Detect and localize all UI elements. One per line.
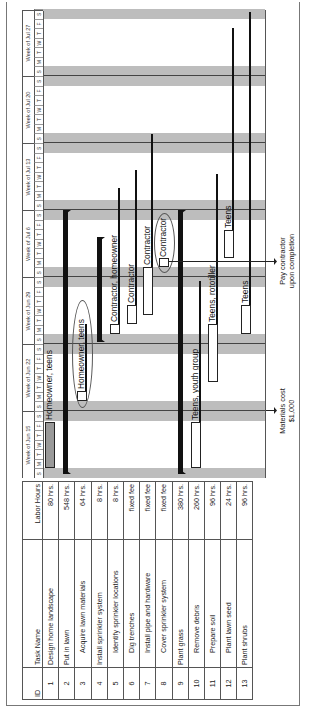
table-row: 9Plant grass380 hrs. xyxy=(172,482,188,700)
day-header: T xyxy=(34,382,43,392)
table-row: 10Remove debris260 hrs. xyxy=(188,482,204,700)
row-hours: 260 hrs. xyxy=(188,482,204,540)
day-header: W xyxy=(34,306,43,316)
week-header: Week of Jun 29 xyxy=(23,277,34,344)
day-header: S xyxy=(34,401,43,411)
resource-label-6: Contractor xyxy=(126,264,136,303)
week-divider xyxy=(43,410,265,411)
table-row: 2Put in lawn548 hrs. xyxy=(59,482,75,700)
row-id: 2 xyxy=(59,668,75,700)
row-id: 12 xyxy=(221,668,237,700)
day-header: S xyxy=(34,133,43,143)
row-hours: 24 hrs. xyxy=(221,482,237,540)
day-header: T xyxy=(34,28,43,38)
day-header: W xyxy=(34,373,43,383)
task-bar-12 xyxy=(224,230,234,258)
row-name: Remove debris xyxy=(188,540,204,668)
day-header: T xyxy=(34,430,43,440)
table-row: 4Install sprinkler system8 hrs. xyxy=(91,482,107,700)
row-id: 8 xyxy=(156,668,172,700)
row-name: Plant shrubs xyxy=(237,540,253,668)
row-name: Dig trenches xyxy=(123,540,139,668)
day-header: S xyxy=(34,344,43,354)
day-header: S xyxy=(34,143,43,153)
row-hours: fixed fee xyxy=(156,482,172,540)
row-name: Acquire lawn materials xyxy=(75,540,91,668)
materials-note: Materials cost $1,000 xyxy=(278,378,296,444)
day-header: S xyxy=(34,468,43,478)
row-id: 7 xyxy=(140,668,156,700)
day-header: S xyxy=(34,334,43,344)
row-name: Prepare soil xyxy=(204,540,220,668)
day-header: S xyxy=(34,200,43,210)
day-header: W xyxy=(34,38,43,48)
day-header: T xyxy=(34,229,43,239)
day-header: T xyxy=(34,162,43,172)
row-name: Design home landscape xyxy=(43,540,59,668)
row-hours: 8 hrs. xyxy=(91,482,107,540)
task-table: ID Task Name Labor Hours 1Design home la… xyxy=(22,481,253,700)
resource-label-10: Teens, youth group xyxy=(190,349,200,420)
day-header: M xyxy=(34,325,43,335)
day-header: F xyxy=(34,287,43,297)
table-row: 8Cover sprinkler systemfixed fee xyxy=(156,482,172,700)
contractor-note: Pay contractor upon completion xyxy=(278,220,296,302)
weekend-band xyxy=(43,277,265,287)
resource-label-1: Homeowner, teens xyxy=(44,350,54,420)
day-header: S xyxy=(34,66,43,76)
day-header: S xyxy=(34,9,43,19)
day-header: T xyxy=(34,181,43,191)
table-row: 12Plant lawn seed24 hrs. xyxy=(221,482,237,700)
day-header: S xyxy=(34,267,43,277)
contractor-note-line2: upon completion xyxy=(287,220,296,302)
header-id: ID xyxy=(23,668,43,700)
day-header: M xyxy=(34,57,43,67)
day-header: F xyxy=(34,354,43,364)
day-header: M xyxy=(34,191,43,201)
table-row: 7Install pipe and hardwarefixed fee xyxy=(140,482,156,700)
row-id: 3 xyxy=(75,668,91,700)
day-header: M xyxy=(34,258,43,268)
day-header: T xyxy=(34,363,43,373)
day-header: S xyxy=(34,210,43,220)
day-header: T xyxy=(34,449,43,459)
connector-line xyxy=(169,261,267,262)
gantt-figure: ID Task Name Labor Hours 1Design home la… xyxy=(0,0,309,714)
summary-bar-2 xyxy=(63,210,68,474)
row-name: Install sprinkler system xyxy=(91,540,107,668)
week-header: Week of Jul 13 xyxy=(23,143,34,210)
gantt-timeline: Week of Jun 15 Week of Jun 22 Week of Ju… xyxy=(22,10,266,478)
slack-line-12 xyxy=(232,28,234,230)
resource-label-11: Teens, rototiller xyxy=(207,265,217,322)
day-header: T xyxy=(34,95,43,105)
table-row: 1Design home landscape80 hrs. xyxy=(43,482,59,700)
task-bar-7 xyxy=(143,267,153,315)
day-header: T xyxy=(34,296,43,306)
day-header: F xyxy=(34,220,43,230)
contractor-note-line1: Pay contractor xyxy=(278,220,287,302)
row-hours: fixed fee xyxy=(123,482,139,540)
highlight-ellipse-8 xyxy=(154,213,175,273)
summary-bar-9 xyxy=(178,210,183,474)
highlight-ellipse-3 xyxy=(72,300,93,408)
task-bar-1 xyxy=(45,422,55,468)
row-id: 5 xyxy=(107,668,123,700)
row-id: 13 xyxy=(237,668,253,700)
day-header: M xyxy=(34,124,43,134)
weekend-band xyxy=(43,411,265,421)
day-header: W xyxy=(34,105,43,115)
weekend-band xyxy=(43,468,265,478)
materials-note-line1: Materials cost xyxy=(278,378,287,444)
row-id: 10 xyxy=(188,668,204,700)
resource-label-13: Teens xyxy=(240,281,250,303)
row-hours: fixed fee xyxy=(140,482,156,540)
day-header: T xyxy=(34,114,43,124)
header-labor-hours: Labor Hours xyxy=(23,482,43,540)
row-hours: 96 hrs. xyxy=(204,482,220,540)
task-bar-6 xyxy=(127,305,137,324)
row-hours: 8 hrs. xyxy=(107,482,123,540)
day-header: M xyxy=(34,459,43,469)
row-id: 11 xyxy=(204,668,220,700)
day-header: W xyxy=(34,440,43,450)
row-hours: 96 hrs. xyxy=(237,482,253,540)
